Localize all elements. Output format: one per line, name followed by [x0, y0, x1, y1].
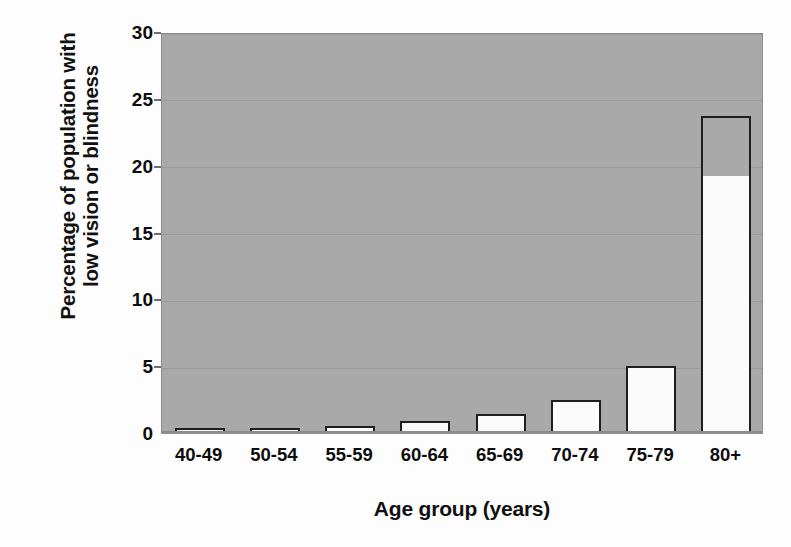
bar: [626, 366, 676, 433]
y-axis-tick-mark: [154, 99, 161, 101]
y-axis-tick-label: 5: [117, 356, 153, 378]
x-axis-tick-label: 55-59: [325, 444, 372, 466]
chart-figure: Percentage of population with low vision…: [0, 0, 791, 547]
x-axis-tick-label: 75-79: [626, 444, 673, 466]
bar: [551, 400, 601, 433]
y-axis-tick-label: 25: [117, 89, 153, 111]
plot-area: [161, 33, 763, 434]
x-axis-tick-label: 40-49: [175, 444, 222, 466]
bar-series: [162, 34, 762, 433]
y-axis-tick-mark: [154, 166, 161, 168]
y-axis-title-line-1: Percentage of population with: [57, 33, 80, 320]
y-axis-tick-label: 0: [117, 423, 153, 445]
y-axis-tick-label: 20: [117, 156, 153, 178]
y-axis-tick-labels: 051015202530: [110, 0, 153, 547]
x-axis-tick-labels: 40-4950-5455-5960-6465-6970-7475-7980+: [161, 444, 763, 474]
x-axis-tick-label: 80+: [710, 444, 741, 466]
y-axis-tick-mark: [154, 32, 161, 34]
y-axis-tick-mark: [154, 366, 161, 368]
x-axis-tick-label: 70-74: [551, 444, 598, 466]
y-axis-tick-mark: [154, 299, 161, 301]
y-axis-tick-mark: [154, 233, 161, 235]
y-axis-tick-label: 10: [117, 289, 153, 311]
bar-top-shading: [703, 118, 749, 176]
x-axis-tick-label: 50-54: [250, 444, 297, 466]
x-axis-title: Age group (years): [161, 497, 763, 521]
x-axis-line: [162, 431, 762, 433]
bar: [701, 116, 751, 433]
x-axis-tick-label: 65-69: [476, 444, 523, 466]
y-axis-tick-label: 15: [117, 223, 153, 245]
y-axis-tick-label: 30: [117, 22, 153, 44]
y-axis-title: Percentage of population with low vision…: [50, 6, 110, 346]
y-axis-title-line-2: low vision or blindness: [80, 65, 103, 287]
x-axis-tick-label: 60-64: [401, 444, 448, 466]
